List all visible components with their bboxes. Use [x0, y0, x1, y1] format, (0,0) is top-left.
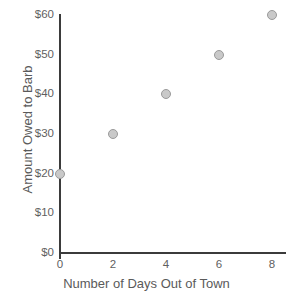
data-point — [108, 129, 118, 139]
data-point — [161, 89, 171, 99]
x-axis-title: Number of Days Out of Town — [0, 276, 293, 291]
x-tick-label-0: 0 — [48, 258, 72, 270]
x-tick-label-4: 4 — [154, 258, 178, 270]
y-tick-label-60: $60 — [0, 9, 54, 21]
scatter-plot: $60 $50 $40 $30 $20 $10 $0 0 2 4 6 8 Amo… — [0, 0, 293, 298]
data-point — [267, 10, 277, 20]
x-axis-line — [60, 252, 286, 254]
data-point — [214, 50, 224, 60]
y-tick-label-0: $0 — [0, 247, 54, 259]
x-tick-label-2: 2 — [101, 258, 125, 270]
x-tick-label-8: 8 — [260, 258, 284, 270]
y-axis-title: Amount Owed to Barb — [20, 40, 35, 220]
y-axis-line — [59, 14, 61, 254]
x-tick-label-6: 6 — [207, 258, 231, 270]
data-point — [55, 169, 65, 179]
